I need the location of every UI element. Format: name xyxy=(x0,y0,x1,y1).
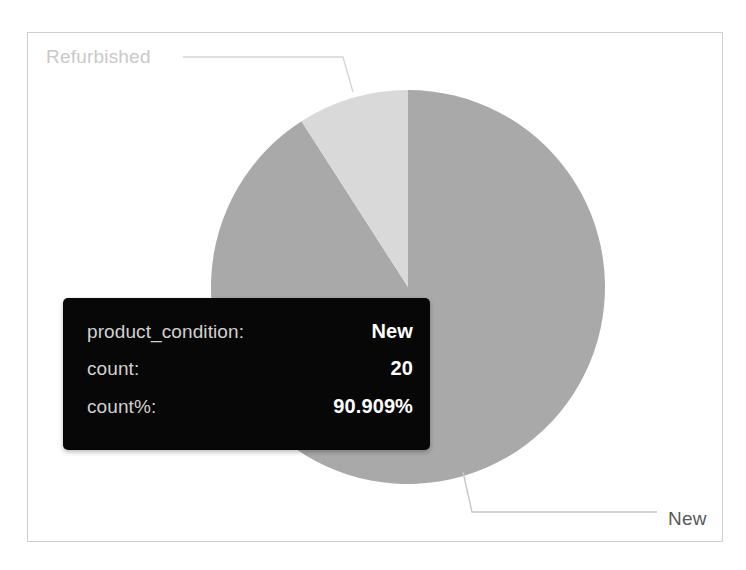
tooltip-key-count: count: xyxy=(87,358,139,380)
tooltip-row: count%: 90.909% xyxy=(87,395,413,432)
tooltip-value-count-percent: 90.909% xyxy=(333,395,413,418)
tooltip-key-count-percent: count%: xyxy=(87,396,156,418)
tooltip-row: product_condition: New xyxy=(87,320,413,357)
chart-tooltip: product_condition: New count: 20 count%:… xyxy=(63,298,430,450)
pie-label-refurbished: Refurbished xyxy=(46,46,151,68)
tooltip-value-count: 20 xyxy=(391,357,413,380)
leader-line-new xyxy=(463,472,657,512)
tooltip-row: count: 20 xyxy=(87,357,413,394)
leader-line-refurbished xyxy=(183,57,353,92)
tooltip-value-product-condition: New xyxy=(372,320,413,343)
chart-screenshot: Refurbished New product_condition: New c… xyxy=(0,0,746,570)
pie-chart[interactable] xyxy=(0,0,746,570)
pie-label-new: New xyxy=(668,508,707,530)
tooltip-key-product-condition: product_condition: xyxy=(87,321,244,343)
